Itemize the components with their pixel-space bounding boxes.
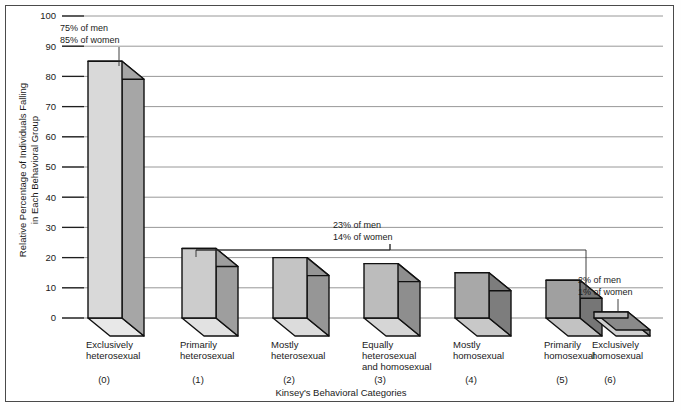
annotation-bar0-line-2: 85% of women xyxy=(60,35,120,45)
bar-1[interactable] xyxy=(182,249,238,336)
y-axis-title-line-2: in Each Behavioral Group xyxy=(29,116,40,224)
category-label-0-line-0: Exclusively xyxy=(86,339,133,350)
category-label-3-line-2: and homosexual xyxy=(362,361,432,372)
category-label-3-line-1: heterosexual xyxy=(362,350,416,361)
bar-4-front-face xyxy=(455,273,489,318)
y-tick-label-90: 90 xyxy=(45,41,56,52)
y-tick-label-30: 30 xyxy=(45,222,56,233)
y-tick-label-70: 70 xyxy=(45,101,56,112)
bar-4[interactable] xyxy=(455,273,511,336)
category-label-4-line-1: homosexual xyxy=(453,350,504,361)
y-tick-label-20: 20 xyxy=(45,252,56,263)
category-label-1-line-0: Primarily xyxy=(180,339,217,350)
y-tick-label-80: 80 xyxy=(45,71,56,82)
bar-3[interactable] xyxy=(364,264,420,336)
bar-6-front-face xyxy=(594,312,628,318)
category-code-3: (3) xyxy=(374,374,386,385)
bar-0[interactable] xyxy=(88,61,144,336)
category-label-0-line-1: heterosexual xyxy=(86,350,140,361)
y-tick-label-10: 10 xyxy=(45,282,56,293)
category-code-0: (0) xyxy=(98,374,110,385)
y-tick-label-50: 50 xyxy=(45,161,56,172)
kinsey-scale-bar-chart: 0102030405060708090100Exclusivelyheteros… xyxy=(0,0,681,410)
bar-2[interactable] xyxy=(273,258,329,336)
bar-2-front-face xyxy=(273,258,307,318)
category-code-6: (6) xyxy=(604,374,616,385)
figure-container: 0102030405060708090100Exclusivelyheteros… xyxy=(0,0,681,410)
y-tick-label-40: 40 xyxy=(45,192,56,203)
category-code-5: (5) xyxy=(556,374,568,385)
category-label-1-line-1: heterosexual xyxy=(180,350,234,361)
bar-3-front-face xyxy=(364,264,398,318)
category-label-2-line-1: heterosexual xyxy=(271,350,325,361)
annotation-bracket-line-1: 23% of men xyxy=(333,220,381,230)
category-code-1: (1) xyxy=(192,374,204,385)
y-tick-label-0: 0 xyxy=(51,312,56,323)
annotation-bar6-line-2: 1% of women xyxy=(578,287,633,297)
bar-0-side-face xyxy=(122,61,144,336)
category-label-4-line-0: Mostly xyxy=(453,339,481,350)
category-label-2-line-0: Mostly xyxy=(271,339,299,350)
category-label-6-line-1: homosexual xyxy=(592,350,643,361)
bar-1-front-face xyxy=(182,249,216,318)
category-label-6-line-0: Exclusively xyxy=(592,339,639,350)
category-label-3-line-0: Equally xyxy=(362,339,393,350)
annotation-bar6-line-1: 2% of men xyxy=(578,275,621,285)
category-code-2: (2) xyxy=(283,374,295,385)
y-tick-label-100: 100 xyxy=(40,10,56,21)
category-label-5-line-0: Primarily xyxy=(544,339,581,350)
y-tick-label-60: 60 xyxy=(45,131,56,142)
bar-5-front-face xyxy=(546,280,580,318)
annotation-bar0-line-1: 75% of men xyxy=(60,23,108,33)
bar-0-front-face xyxy=(88,61,122,318)
x-axis-title: Kinsey's Behavioral Categories xyxy=(275,387,406,398)
category-code-4: (4) xyxy=(465,374,477,385)
category-label-5-line-1: homosexual xyxy=(544,350,595,361)
y-axis-title-line-1: Relative Percentage of Individuals Falli… xyxy=(17,83,28,257)
annotation-bracket-line-2: 14% of women xyxy=(333,232,393,242)
